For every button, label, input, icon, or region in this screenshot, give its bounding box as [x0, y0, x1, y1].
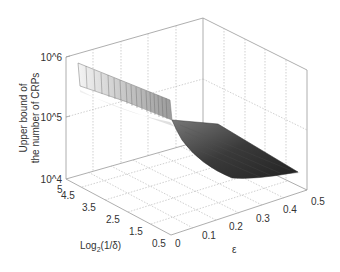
log-axis: 5 4.5 3.5 2.5 1.5 0.5 Log2(1/δ) [57, 184, 166, 253]
epsilon-axis: 0 0.1 0.2 0.3 0.4 0.5 ε [175, 196, 325, 255]
epsilon-axis-label: ε [232, 244, 237, 255]
eps-tick-0.2: 0.2 [229, 221, 243, 232]
eps-tick-0.4: 0.4 [283, 204, 297, 215]
log-axis-label: Log2(1/δ) [80, 240, 121, 253]
log-tick-1.5: 1.5 [129, 226, 143, 237]
log-tick-0.5: 0.5 [152, 238, 166, 249]
eps-tick-0: 0 [175, 238, 181, 249]
eps-tick-0.5: 0.5 [311, 196, 325, 207]
z-tick-1e5: 10^5 [41, 112, 63, 123]
z-tick-1e6: 10^6 [41, 52, 63, 63]
surface [78, 63, 300, 178]
log-tick-3.5: 3.5 [82, 202, 96, 213]
z-axis: 10^6 10^5 10^4 Upper bound of the number… [18, 52, 70, 185]
z-axis-label-line1: Upper bound of [18, 83, 29, 152]
z-axis-label-line2: the number of CRPs [30, 73, 41, 164]
log-tick-2.5: 2.5 [106, 214, 120, 225]
eps-tick-0.1: 0.1 [202, 230, 216, 241]
eps-tick-0.3: 0.3 [256, 213, 270, 224]
surface-chart: 10^6 10^5 10^4 Upper bound of the number… [0, 0, 340, 272]
log-tick-4.5: 4.5 [61, 190, 75, 201]
